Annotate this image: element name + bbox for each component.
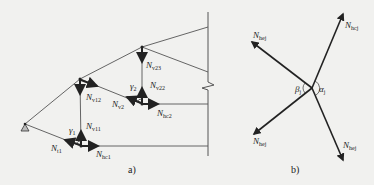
pin-support-icon xyxy=(21,123,29,131)
arrow-nt1 xyxy=(65,140,80,145)
label-nv2: Nv2 xyxy=(111,99,124,110)
angle-arc-beta xyxy=(303,83,305,93)
label-beta: βj xyxy=(294,84,301,95)
figure-b: Nhcj Nhej Nhej Nhej βj αj b) xyxy=(252,14,359,176)
label-nv23: Nv23 xyxy=(145,60,161,71)
figure-a: Nv23 Nv22 γ2 Nv2 Nhc2 Nv12 γ1 Nv11 Nt1 N… xyxy=(21,12,214,176)
arrow-upper-diag xyxy=(81,80,97,86)
label-top-right: Nhcj xyxy=(344,20,359,31)
wall-line xyxy=(202,12,214,156)
caption-a: a) xyxy=(128,164,136,176)
label-bottom-left: Nhej xyxy=(252,136,267,147)
label-gamma1: γ1 xyxy=(69,125,76,136)
truss-force-diagram: Nv23 Nv22 γ2 Nv2 Nhc2 Nv12 γ1 Nv11 Nt1 N… xyxy=(0,0,374,185)
arrow-top-right xyxy=(312,14,343,88)
top-chord xyxy=(25,27,208,124)
arrow-bottom-right xyxy=(312,88,343,160)
label-top-left: Nhej xyxy=(252,30,267,41)
label-gamma2: γ2 xyxy=(130,81,137,92)
caption-b: b) xyxy=(291,164,299,176)
label-nhc2: Nhc2 xyxy=(156,108,172,119)
label-bottom-right: Nhej xyxy=(342,140,357,151)
label-nv11: Nv11 xyxy=(85,121,101,132)
arrow-top-left xyxy=(252,42,312,88)
label-nv22: Nv22 xyxy=(149,80,165,91)
arrow-bottom-left xyxy=(254,88,312,134)
label-nv12: Nv12 xyxy=(85,92,101,103)
label-alpha: αj xyxy=(319,84,326,95)
label-nhc1: Nhc1 xyxy=(95,149,111,160)
label-nt1: Nt1 xyxy=(50,143,62,154)
